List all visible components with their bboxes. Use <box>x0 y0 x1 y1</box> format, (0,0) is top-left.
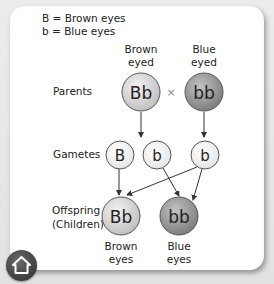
parent-right-circle: bb <box>185 73 223 111</box>
offspring-caption-1b: eyes <box>109 253 134 265</box>
offspring-caption-2b: eyes <box>167 253 192 265</box>
parent-left-circle: Bb <box>122 73 160 111</box>
arrow-b-to-offspring-Bb <box>127 167 197 195</box>
cross-symbol: × <box>166 86 175 99</box>
punnett-diagram: B = Brown eyes b = Blue eyes Brown eyed … <box>0 0 274 284</box>
offspring-caption-1a: Brown <box>105 240 138 252</box>
gamete-circle-1: B <box>106 141 134 169</box>
parent-left-header-2: eyed <box>128 56 154 68</box>
parent-right-header-2: eyed <box>191 56 217 68</box>
offspring-caption-2a: Blue <box>167 240 190 252</box>
offspring-circle-2: bb <box>160 197 198 235</box>
legend-brown: B = Brown eyes <box>42 12 126 24</box>
offspring-circle-1: Bb <box>102 197 140 235</box>
parent-right-header-1: Blue <box>192 43 215 55</box>
arrow-b-to-offspring-bb-1 <box>163 168 179 196</box>
gamete-allele-1: B <box>115 147 125 165</box>
row-label-gametes: Gametes <box>53 148 100 160</box>
row-label-offspring-2: (Children) <box>52 218 104 230</box>
parent-right-genotype: bb <box>193 83 215 103</box>
legend-blue: b = Blue eyes <box>42 25 115 37</box>
home-icon <box>6 250 37 281</box>
row-label-parents: Parents <box>53 85 92 97</box>
gamete-circle-3: b <box>191 141 219 169</box>
gamete-allele-2: b <box>152 147 162 165</box>
arrow-b-to-offspring-bb-2 <box>193 169 202 200</box>
gamete-allele-3: b <box>200 147 210 165</box>
parent-left-header-1: Brown <box>125 43 158 55</box>
row-label-offspring-1: Offspring <box>52 204 100 216</box>
offspring-genotype-2: bb <box>168 207 190 227</box>
gamete-circle-2: b <box>143 141 171 169</box>
offspring-genotype-1: Bb <box>110 207 132 227</box>
home-button[interactable] <box>6 250 37 281</box>
parent-left-genotype: Bb <box>130 83 152 103</box>
